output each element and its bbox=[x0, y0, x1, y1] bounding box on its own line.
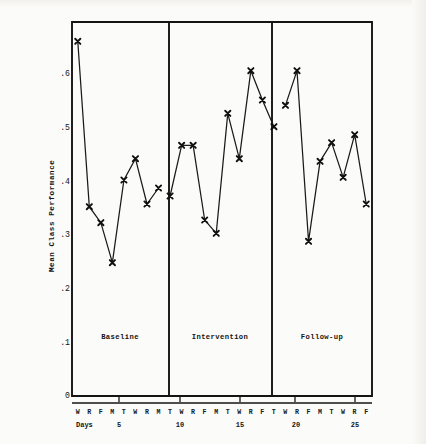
phase-series-follow-up bbox=[283, 68, 369, 244]
y-tick-label-3: .3 bbox=[60, 230, 70, 239]
day-letter-label: T bbox=[272, 409, 276, 416]
day-letter-label: R bbox=[249, 409, 253, 416]
day-letter-label: R bbox=[191, 409, 195, 416]
data-point-marker bbox=[260, 97, 265, 102]
x-tick-label-25: 25 bbox=[351, 421, 359, 429]
y-tick-label-1: .1 bbox=[60, 338, 70, 347]
x-tick-label-15: 15 bbox=[236, 421, 244, 429]
phase-label-intervention: Intervention bbox=[192, 333, 249, 341]
x-tick-label-5: 5 bbox=[117, 421, 121, 429]
y-axis-title: Mean Class Performance bbox=[48, 160, 56, 272]
day-letter-label: W bbox=[237, 409, 241, 416]
day-letter-label: F bbox=[260, 409, 264, 416]
day-letter-label: T bbox=[226, 409, 230, 416]
day-letter-label: M bbox=[318, 409, 322, 416]
day-letter-label: W bbox=[180, 409, 184, 416]
day-letter-label: W bbox=[341, 409, 345, 416]
x-tick-label-10: 10 bbox=[176, 421, 184, 429]
y-tick-label-0: 0 bbox=[65, 391, 70, 400]
phase-label-baseline: Baseline bbox=[101, 333, 139, 341]
day-letter-label: R bbox=[353, 409, 357, 416]
day-letter-label: M bbox=[214, 409, 218, 416]
day-letter-label: R bbox=[87, 409, 91, 416]
phase-series-baseline bbox=[75, 39, 161, 266]
y-tick-labels: 0 .1 .2 .3 .4 .5 .6 bbox=[60, 69, 70, 400]
phase-series-intervention bbox=[167, 68, 276, 236]
day-letter-label: W bbox=[283, 409, 287, 416]
y-tick-label-2: .2 bbox=[60, 284, 70, 293]
day-letter-label: R bbox=[295, 409, 299, 416]
day-letter-label: M bbox=[156, 409, 160, 416]
day-letter-label: T bbox=[122, 409, 126, 416]
day-letter-label: T bbox=[330, 409, 334, 416]
y-tick-label-6: .6 bbox=[60, 69, 70, 78]
data-line bbox=[285, 71, 366, 242]
x-tick-label-20: 20 bbox=[292, 421, 300, 429]
day-letter-label: F bbox=[99, 409, 103, 416]
day-letter-label: F bbox=[364, 409, 368, 416]
day-letter-label: T bbox=[168, 409, 172, 416]
day-letter-label: W bbox=[76, 409, 80, 416]
day-letter-label: W bbox=[133, 409, 137, 416]
phase-label-followup: Follow-up bbox=[301, 333, 343, 341]
day-letter-labels: WRFMTWRMTWRFMTWRFTWRFMTWRF bbox=[76, 409, 369, 416]
x-axis-title: Days bbox=[76, 421, 93, 429]
data-line bbox=[170, 71, 274, 234]
y-tick-label-5: .5 bbox=[60, 123, 70, 132]
day-letter-label: F bbox=[306, 409, 310, 416]
day-letter-label: F bbox=[203, 409, 207, 416]
data-point-marker bbox=[156, 185, 161, 190]
day-letter-label: R bbox=[145, 409, 149, 416]
data-line bbox=[78, 41, 159, 262]
y-tick-label-4: .4 bbox=[60, 177, 70, 186]
single-subject-line-chart: Mean Class Performance 0 .1 .2 .3 .4 .5 … bbox=[0, 0, 426, 444]
x-tick-number-labels: 5 10 15 20 25 bbox=[117, 421, 359, 429]
chart-svg: Mean Class Performance 0 .1 .2 .3 .4 .5 … bbox=[0, 0, 426, 444]
day-letter-label: M bbox=[110, 409, 114, 416]
data-series-layer bbox=[75, 39, 369, 266]
